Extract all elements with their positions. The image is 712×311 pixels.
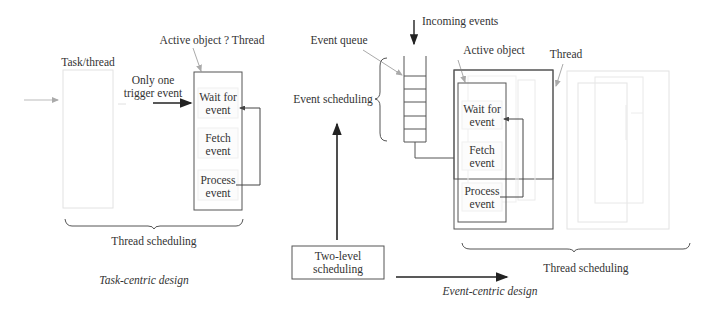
event-scheduling-label: Event scheduling (293, 93, 373, 106)
task-thread-box (63, 70, 113, 208)
task-centric-panel: Task/thread Only one trigger event Activ… (24, 34, 265, 287)
trigger-label-line1: Only one (132, 74, 174, 87)
loop-back-arrow (236, 108, 260, 185)
step-wait-line1-right: Wait for (463, 103, 501, 115)
thread-scheduling-brace (65, 219, 243, 229)
active-object-pointer-right (458, 60, 465, 82)
step-fetch-line2-right: event (470, 157, 496, 169)
task-centric-caption: Task-centric design (99, 274, 189, 287)
faint-inner-box (595, 77, 643, 203)
task-thread-label: Task/thread (61, 56, 115, 68)
step-wait-line1: Wait for (199, 91, 237, 103)
step-fetch-line1-right: Fetch (469, 144, 495, 156)
other-threads-faint (567, 71, 669, 229)
two-level-line1: Two-level (315, 250, 361, 262)
step-process-line1: Process (200, 174, 236, 186)
step-process-line1-right: Process (464, 185, 500, 197)
step-process-line2-right: event (470, 198, 496, 210)
faint-active-object-box (578, 83, 627, 222)
event-queue-label: Event queue (310, 34, 367, 47)
step-fetch-line1: Fetch (205, 132, 231, 144)
active-object-label: Active object (463, 44, 525, 57)
faint-background-box (518, 80, 535, 200)
step-wait-line2-right: event (470, 116, 496, 128)
active-object-pointer (193, 48, 201, 71)
diagram-canvas: Task/thread Only one trigger event Activ… (0, 0, 712, 311)
thread-label: Thread (550, 48, 583, 60)
event-queue-pointer (363, 50, 402, 75)
queue-connector (415, 142, 454, 158)
trigger-label-line2: trigger event (124, 87, 183, 100)
thread-scheduling-brace-right (462, 243, 690, 252)
two-level-line2: scheduling (313, 263, 363, 276)
event-centric-panel: Incoming events Event queue Event schedu… (292, 15, 690, 298)
event-centric-caption: Event-centric design (442, 285, 538, 298)
step-wait-line2: event (206, 104, 232, 116)
right-thread-scheduling-label: Thread scheduling (543, 262, 629, 275)
loop-back-arrow-right (500, 119, 523, 197)
thread-pointer (556, 64, 563, 86)
faint-thread-box (567, 71, 669, 229)
step-process-line2: event (206, 187, 232, 199)
event-scheduling-brace (375, 58, 387, 141)
active-object-thread-label: Active object ? Thread (160, 34, 265, 47)
incoming-events-label: Incoming events (422, 15, 499, 28)
left-thread-scheduling-label: Thread scheduling (111, 235, 197, 248)
step-fetch-line2: event (206, 145, 232, 157)
event-queue (404, 56, 426, 142)
